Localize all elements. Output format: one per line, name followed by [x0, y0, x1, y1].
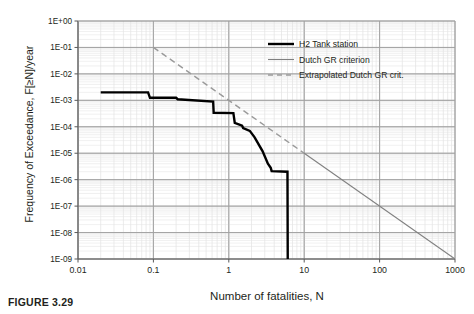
y-tick-label: 1E-08	[50, 229, 72, 238]
legend-label: H2 Tank station	[299, 39, 358, 49]
x-tick-label: 0.01	[69, 265, 86, 275]
x-axis-label: Number of fatalities, N	[78, 290, 456, 302]
fn-curve-plot: 1E+001E-011E-021E-031E-041E-051E-061E-07…	[0, 0, 474, 288]
y-tick-label: 1E-06	[50, 176, 72, 185]
y-tick-label: 1E-02	[50, 70, 72, 79]
y-axis-tick-labels: 1E+001E-011E-021E-031E-041E-051E-061E-07…	[48, 17, 72, 264]
legend-label: Extrapolated Dutch GR crit.	[299, 70, 404, 80]
major-gridlines	[78, 21, 455, 259]
y-tick-label: 1E-09	[50, 255, 72, 264]
x-tick-label: 1000	[445, 265, 465, 275]
y-tick-label: 1E-05	[50, 149, 72, 158]
y-tick-label: 1E-04	[50, 123, 72, 132]
y-tick-label: 1E+00	[48, 17, 72, 26]
x-axis-tick-labels: 0.010.11101001000	[69, 265, 464, 275]
x-tick-label: 10	[299, 265, 309, 275]
x-tick-label: 100	[372, 265, 387, 275]
minor-gridlines	[78, 21, 455, 259]
x-tick-label: 0.1	[147, 265, 159, 275]
figure-caption: FIGURE 3.29	[8, 296, 73, 308]
y-axis-label-text: Frequency of Exceedance, F[≥N]/year	[23, 46, 35, 223]
figure-container: 1E+001E-011E-021E-031E-041E-051E-061E-07…	[0, 0, 474, 314]
legend-label: Dutch GR criterion	[299, 55, 370, 65]
x-axis-label-text: Number of fatalities, N	[210, 290, 324, 302]
x-tick-label: 1	[226, 265, 231, 275]
y-tick-label: 1E-01	[50, 43, 72, 52]
y-tick-label: 1E-07	[50, 202, 72, 211]
y-tick-label: 1E-03	[50, 96, 72, 105]
y-axis-label: Frequency of Exceedance, F[≥N]/year	[23, 19, 35, 249]
chart-area: 1E+001E-011E-021E-031E-041E-051E-061E-07…	[0, 0, 474, 288]
